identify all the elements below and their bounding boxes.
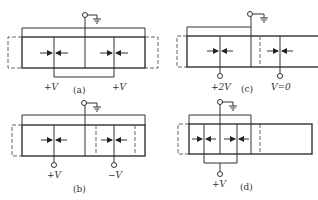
voltage-label: +V <box>47 170 63 180</box>
ground-terminal-icon <box>83 13 88 18</box>
panel-caption: (c) <box>241 84 253 94</box>
ground-terminal-icon <box>218 100 223 105</box>
top-electrode <box>22 28 145 37</box>
panel-caption: (a) <box>73 85 85 95</box>
voltage-label: V=0 <box>271 82 291 92</box>
top-electrode <box>187 27 251 36</box>
dashed-outline <box>177 36 187 67</box>
voltage-label: +V <box>212 179 228 189</box>
panel-b <box>12 101 145 168</box>
dashed-outline <box>8 37 158 68</box>
voltage-label: −V <box>108 170 124 180</box>
terminal-icon <box>278 74 283 79</box>
terminal-icon <box>52 163 57 168</box>
terminal-icon <box>218 172 223 177</box>
terminal-icon <box>112 163 117 168</box>
dashed-outline <box>178 124 189 154</box>
panel-caption: (d) <box>240 182 253 192</box>
voltage-label: +2V <box>211 82 232 92</box>
panel-caption: (b) <box>73 184 86 194</box>
diagram-canvas: +V +V (a) +2V (c) V=0 <box>0 0 318 200</box>
panel-d <box>178 100 312 177</box>
voltage-label: +V <box>112 82 128 92</box>
terminal-icon <box>218 74 223 79</box>
voltage-label: +V <box>44 82 60 92</box>
top-electrode <box>22 115 145 125</box>
substrate-body <box>187 36 318 67</box>
panel-a <box>8 13 158 78</box>
ground-terminal-icon <box>248 12 253 17</box>
dashed-outline <box>12 125 22 156</box>
ground-terminal-icon <box>82 101 87 106</box>
panel-c <box>177 12 318 79</box>
